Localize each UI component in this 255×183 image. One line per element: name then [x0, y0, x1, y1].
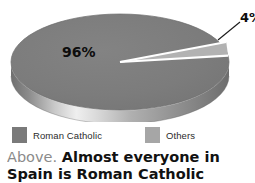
chart-legend: Roman Catholic Others — [0, 124, 255, 146]
figure-caption: Above. Almost everyone in Spain is Roman… — [7, 149, 255, 183]
figure-pie-chart-spain-religion: 96% 4% Roman Catholic Others Above. Almo… — [0, 0, 255, 183]
legend-item-roman-catholic: Roman Catholic — [12, 124, 102, 146]
slice-label-others: 4% — [240, 10, 255, 25]
legend-swatch-roman-catholic — [12, 127, 27, 143]
leader-line-others — [218, 22, 240, 40]
legend-swatch-others — [145, 127, 160, 143]
pie-chart: 96% 4% — [0, 0, 255, 122]
slice-label-roman-catholic: 96% — [62, 44, 96, 60]
pie-chart-svg: 96% 4% — [0, 0, 255, 122]
legend-label-roman-catholic: Roman Catholic — [33, 130, 102, 141]
legend-label-others: Others — [166, 130, 195, 141]
caption-lead: Above. — [7, 149, 57, 165]
legend-item-others: Others — [145, 124, 195, 146]
